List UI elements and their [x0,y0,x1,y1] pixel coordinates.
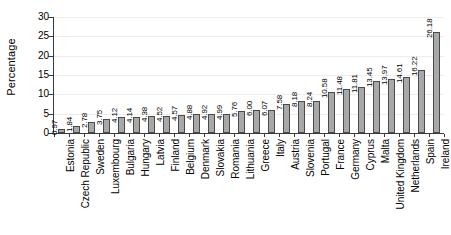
x-category-label: Spain [426,139,436,164]
bar [418,70,425,133]
bar-value-label: 4.12 [111,108,119,123]
bar [118,117,125,133]
x-category-label: Austria [291,139,301,170]
x-category-label: Lithuania [246,139,256,179]
x-category-label: Sweden [96,139,106,175]
x-tick-mark [144,134,145,137]
x-category-label: Italy [276,139,286,157]
bar-value-label: 8.24 [306,92,314,107]
x-tick-mark [159,134,160,137]
y-tick-mark [48,94,53,95]
bar-value-label: 11.81 [351,74,359,93]
x-tick-mark [264,134,265,137]
x-tick-mark [99,134,100,137]
bar-value-label: 13.45 [366,67,374,87]
x-tick-mark [249,134,250,137]
x-tick-mark [204,134,205,137]
bar-value-label: 7.58 [276,95,284,110]
bar [268,110,275,133]
x-tick-mark [69,134,70,137]
bar [223,114,230,133]
x-tick-mark [279,134,280,137]
x-category-label: United Kingdom [396,139,406,209]
x-category-label: Latvia [156,139,166,165]
bar-value-label: 4.52 [156,106,164,121]
x-tick-mark [339,134,340,137]
bar [208,114,215,133]
bar [88,122,95,133]
x-category-label: Greece [261,139,271,172]
x-tick-mark [219,134,220,137]
bar-value-label: 8.18 [291,92,299,107]
bar-value-label: 10.58 [321,79,329,99]
bar [328,92,335,133]
bar [283,104,290,133]
y-tick-mark [48,75,53,76]
x-category-label: Hungary [141,139,151,176]
bar [313,101,320,133]
x-tick-mark [384,134,385,137]
bar [193,114,200,133]
bar [73,126,80,133]
bar-value-label: 1.84 [66,117,74,132]
x-tick-mark [324,134,325,137]
bar-value-label: 16.22 [411,57,419,77]
bar [358,87,365,133]
bar [133,117,140,133]
x-category-label: Belgium [186,139,196,175]
bar [433,32,440,133]
bar-value-label: 0.97 [51,120,59,135]
y-tick-mark [48,114,53,115]
x-tick-mark [369,134,370,137]
x-tick-mark [294,134,295,137]
x-category-label: Finland [171,139,181,171]
x-tick-mark [234,134,235,137]
x-tick-mark [114,134,115,137]
gridline [54,17,444,18]
bar-value-label: 4.99 [216,105,224,120]
x-category-label: Portugal [321,139,331,176]
bar [178,115,185,133]
x-tick-mark [309,134,310,137]
x-category-label: Czech Republic [81,139,91,208]
bar [103,119,110,134]
bar-value-label: 5.76 [231,102,239,117]
bar-value-label: 4.92 [201,105,209,120]
x-category-label: Estonia [66,139,76,172]
x-category-label: Luxembourg [111,139,121,194]
bar-value-label: 3.75 [96,109,104,124]
bar [148,116,155,133]
bar [298,101,305,133]
bar-value-label: 14.61 [396,63,404,83]
x-tick-mark [444,134,445,137]
bar [238,111,245,133]
x-tick-mark [414,134,415,137]
bar [163,116,170,133]
bar-value-label: 4.38 [141,107,149,122]
bar-value-label: 6.00 [246,101,254,116]
bar-value-label: 4.14 [126,108,134,123]
y-tick-mark [48,17,53,18]
x-category-label: Ireland [441,139,451,169]
bar [373,81,380,133]
y-axis-tick-labels: 051015202530 [24,0,53,235]
bar-value-label: 13.97 [381,65,389,85]
x-category-label: Malta [381,139,391,163]
x-category-label: Denmark [201,139,211,179]
bar-value-label: 6.07 [261,100,269,115]
x-category-label: Slovenia [306,139,316,177]
x-category-label: Netherlands [411,139,421,192]
x-tick-mark [174,134,175,137]
y-axis-title: Percentage [4,18,18,116]
bar [343,89,350,133]
x-tick-mark [399,134,400,137]
bar-value-label: 4.57 [171,106,179,121]
y-tick-mark [48,36,53,37]
x-tick-mark [354,134,355,137]
x-tick-mark [129,134,130,137]
x-tick-mark [84,134,85,137]
x-tick-mark [429,134,430,137]
y-tick-mark [48,56,53,57]
x-category-label: Slovakia [216,139,226,176]
x-category-label: Cyprus [366,139,376,170]
